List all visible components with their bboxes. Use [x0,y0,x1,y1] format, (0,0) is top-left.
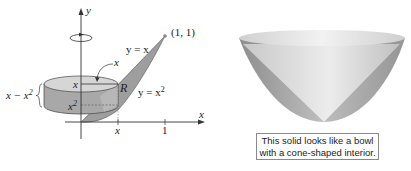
y-axis-label: y [85,4,91,16]
point-label: (1, 1) [171,26,195,39]
tick-x-label: x [114,124,120,136]
y-axis-arrow-icon [79,8,84,15]
shell-method-diagram: y x (1, 1) y = x y = x2 R x x x2 x − x2 … [0,0,215,171]
thickness-brace [36,84,42,107]
tick-one-label: 1 [162,124,168,136]
radius-x-label: x [113,56,119,68]
curve-y-equals-x-squared-label: y = x2 [138,85,165,98]
x-axis-label: x [198,108,204,120]
thickness-label: x − x2 [5,88,33,101]
bowl-rim [239,30,405,46]
height-x-label: x [72,78,78,90]
caption-line-2: with a cone-shaped interior. [257,147,378,159]
region-r-label: R [119,81,128,95]
bowl-solid-illustration [225,0,411,130]
curve-y-equals-x-label: y = x [126,43,149,55]
point-one-one [163,34,167,38]
caption-box: This solid looks like a bowl with a cone… [256,133,379,160]
x-axis-arrow-icon [198,120,205,125]
caption-line-1: This solid looks like a bowl [257,135,378,147]
